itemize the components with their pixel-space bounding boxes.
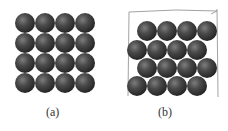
sphere [127,40,147,60]
sphere [157,58,177,78]
packing-diagram [0,0,228,131]
sphere [197,58,217,78]
sphere [15,53,35,73]
sphere [137,58,157,78]
sphere [75,53,95,73]
sphere [177,58,197,78]
sphere [35,53,55,73]
sphere [187,40,207,60]
sphere [55,13,75,33]
sphere [15,73,35,93]
sphere [197,21,217,41]
sphere [15,33,35,53]
sphere [177,21,197,41]
sphere [55,73,75,93]
sphere [147,40,167,60]
sphere [157,21,177,41]
sphere [167,76,187,96]
panel-a-spheres [15,13,95,93]
panel-b-label: (b) [158,105,172,120]
sphere [75,13,95,33]
sphere [127,76,147,96]
sphere [35,13,55,33]
sphere [35,73,55,93]
sphere [75,33,95,53]
panel-a-label: (a) [46,105,59,120]
sphere [147,76,167,96]
sphere [15,13,35,33]
sphere [35,33,55,53]
sphere [55,33,75,53]
sphere [167,40,187,60]
sphere [75,73,95,93]
sphere [137,21,157,41]
sphere [55,53,75,73]
panel-b-spheres [127,21,217,96]
sphere [187,76,207,96]
